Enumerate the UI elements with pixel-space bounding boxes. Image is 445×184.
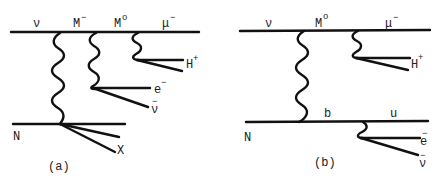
label-mu: μ bbox=[162, 17, 169, 31]
label-mu: μ bbox=[385, 17, 392, 31]
label-m-zero-sup: o bbox=[122, 13, 127, 23]
label-nu: ν bbox=[265, 17, 272, 31]
label-nucleon: N bbox=[244, 131, 251, 145]
boson-propagator-long bbox=[52, 33, 64, 124]
label-quark-b: b bbox=[324, 107, 331, 121]
label-nucleon: N bbox=[13, 130, 20, 144]
boson-propagator-medium bbox=[89, 33, 100, 89]
antineutrino-line bbox=[361, 138, 418, 155]
label-h-plus-sup: + bbox=[418, 53, 423, 63]
label-m-zero: M bbox=[114, 17, 121, 31]
nucleon-line bbox=[246, 121, 428, 122]
antineutrino-line bbox=[93, 88, 148, 107]
label-m-minus: M bbox=[73, 17, 80, 31]
diagram-b: ν M o μ − H + b u N e − ν − (b) bbox=[240, 12, 430, 171]
label-mu-sup: − bbox=[170, 13, 175, 23]
boson-propagator-bottom bbox=[358, 122, 367, 138]
label-m-zero: M bbox=[315, 17, 322, 31]
label-e-minus-sup: − bbox=[422, 129, 427, 139]
feynman-diagrams: ν M − M o μ − H + e − ν − N X (a) ν M o bbox=[0, 0, 445, 184]
label-m-zero-sup: o bbox=[323, 12, 328, 22]
boson-propagator-short bbox=[353, 31, 361, 58]
diagram-a: ν M − M o μ − H + e − ν − N X (a) bbox=[11, 13, 199, 174]
label-quark-u: u bbox=[390, 107, 397, 121]
label-nubar-bar: − bbox=[152, 97, 157, 107]
label-mu-sup: − bbox=[393, 13, 398, 23]
label-nu: ν bbox=[33, 17, 40, 31]
label-e-minus-sup: − bbox=[161, 78, 166, 88]
boson-propagator-long bbox=[296, 31, 308, 122]
caption-a: (a) bbox=[48, 160, 70, 174]
x-line-1 bbox=[60, 124, 119, 137]
label-m-minus-sup: − bbox=[81, 13, 86, 23]
x-line-2 bbox=[60, 124, 115, 152]
label-nubar-bar: − bbox=[420, 151, 425, 161]
hadron-line-2 bbox=[356, 58, 408, 70]
label-h-plus-sup: + bbox=[193, 54, 198, 64]
caption-b: (b) bbox=[314, 156, 336, 170]
hadron-line-2 bbox=[137, 60, 182, 71]
boson-propagator-short bbox=[133, 33, 141, 60]
label-x: X bbox=[117, 144, 124, 158]
